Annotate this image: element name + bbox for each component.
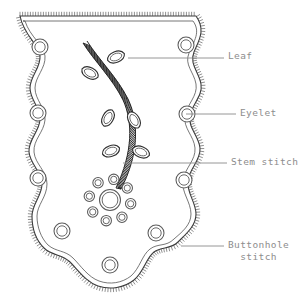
buttonhole-tick — [140, 274, 143, 276]
buttonhole-tick — [27, 159, 31, 161]
buttonhole-tick — [198, 17, 202, 19]
buttonhole-tick — [183, 237, 186, 240]
buttonhole-tick — [198, 74, 202, 76]
buttonhole-tick — [37, 189, 41, 190]
buttonhole-tick — [76, 272, 79, 275]
buttonhole-tick — [121, 287, 122, 291]
flower-petal-eyelet — [93, 178, 103, 188]
petal-inner-ring — [103, 218, 109, 224]
buttonhole-tick — [64, 259, 66, 263]
buttonhole-tick — [189, 189, 193, 190]
buttonhole-tick — [71, 266, 74, 269]
buttonhole-tick — [27, 79, 31, 80]
flower-petal-eyelet — [84, 191, 94, 201]
buttonhole-tick — [196, 217, 200, 218]
petal-inner-ring — [95, 180, 101, 186]
buttonhole-tick — [196, 48, 200, 50]
buttonhole-tick — [200, 154, 204, 155]
buttonhole-tick — [200, 22, 204, 23]
flower-center — [100, 190, 121, 211]
buttonhole-tick — [195, 67, 199, 69]
buttonhole-tick — [33, 237, 37, 239]
buttonhole-tick — [28, 211, 32, 212]
buttonhole-tick — [200, 145, 204, 146]
buttonhole-tick — [152, 254, 155, 257]
flower-petal-eyelet — [125, 199, 135, 209]
buttonhole-tick — [190, 172, 194, 174]
buttonhole-tick — [189, 231, 192, 234]
buttonhole-tick — [99, 287, 100, 291]
petal-inner-ring — [111, 176, 117, 182]
buttonhole-tick — [32, 200, 36, 202]
flower-center-inner — [102, 192, 118, 208]
eyelet-motif — [148, 225, 164, 241]
buttonhole-tick — [196, 163, 200, 165]
eyelet-inner-ring — [105, 260, 115, 270]
buttonhole-tick — [197, 100, 201, 102]
buttonhole-tick — [195, 132, 199, 134]
buttonhole-tick — [35, 241, 39, 243]
buttonhole-tick — [18, 22, 22, 23]
buttonhole-tick — [31, 235, 35, 236]
buttonhole-tick — [193, 128, 197, 130]
buttonhole-tick — [36, 191, 40, 192]
buttonhole-tick — [30, 74, 34, 76]
buttonhole-tick — [53, 254, 54, 258]
buttonhole-tick — [199, 156, 203, 157]
buttonhole-tick — [86, 281, 89, 284]
eyelet-motif — [32, 39, 48, 55]
buttonhole-tick — [164, 248, 165, 252]
buttonhole-tick — [20, 27, 24, 29]
buttonhole-tick — [201, 25, 205, 26]
petal-inner-ring — [86, 193, 92, 199]
buttonhole-tick — [30, 100, 34, 102]
buttonhole-tick — [118, 287, 119, 291]
buttonhole-tick — [33, 67, 37, 69]
buttonhole-tick — [200, 93, 204, 94]
buttonhole-tick — [80, 276, 83, 279]
buttonhole-tick — [29, 98, 33, 100]
buttonhole-tick — [37, 244, 40, 246]
buttonhole-tick — [200, 39, 204, 40]
buttonhole-tick — [60, 257, 62, 261]
buttonhole-tick — [194, 166, 198, 168]
buttonhole-tick — [181, 239, 184, 242]
buttonhole-tick — [35, 63, 39, 64]
buttonhole-tick — [192, 227, 195, 229]
buttonhole-tick — [27, 93, 31, 94]
buttonhole-tick — [31, 103, 35, 105]
buttonhole-tick — [194, 64, 198, 66]
buttonhole-tick — [180, 240, 183, 243]
eyelet-motif — [178, 37, 194, 53]
buttonhole-tick — [185, 235, 188, 238]
buttonhole-tick — [30, 230, 34, 231]
buttonhole-tick — [29, 76, 33, 78]
buttonhole-tick — [56, 255, 57, 259]
buttonhole-tick — [36, 61, 40, 62]
buttonhole-tick — [144, 267, 148, 269]
buttonhole-tick — [201, 34, 205, 35]
eyelet-motif — [30, 105, 46, 121]
buttonhole-tick — [187, 233, 190, 236]
buttonhole-tick — [29, 164, 33, 166]
label-leaf: Leaf — [228, 50, 252, 62]
buttonhole-tick — [145, 265, 149, 267]
buttonhole-tick — [138, 276, 141, 279]
buttonhole-tick — [34, 126, 38, 128]
buttonhole-tick — [41, 248, 44, 251]
buttonhole-tick — [197, 71, 201, 73]
buttonhole-tick — [94, 285, 96, 289]
buttonhole-tick — [135, 279, 138, 282]
buttonhole-tick — [36, 193, 40, 195]
buttonhole-tick — [31, 132, 35, 134]
buttonhole-tick — [26, 85, 30, 86]
buttonhole-tick — [25, 148, 29, 149]
buttonhole-tick — [29, 225, 33, 226]
buttonhole-tick — [22, 32, 26, 34]
buttonhole-tick — [48, 252, 50, 256]
buttonhole-tick — [198, 98, 202, 100]
eyelet-inner-ring — [181, 40, 191, 50]
buttonhole-tick — [89, 283, 91, 286]
buttonhole-tick — [78, 274, 81, 277]
eyelet-motif — [176, 172, 192, 188]
